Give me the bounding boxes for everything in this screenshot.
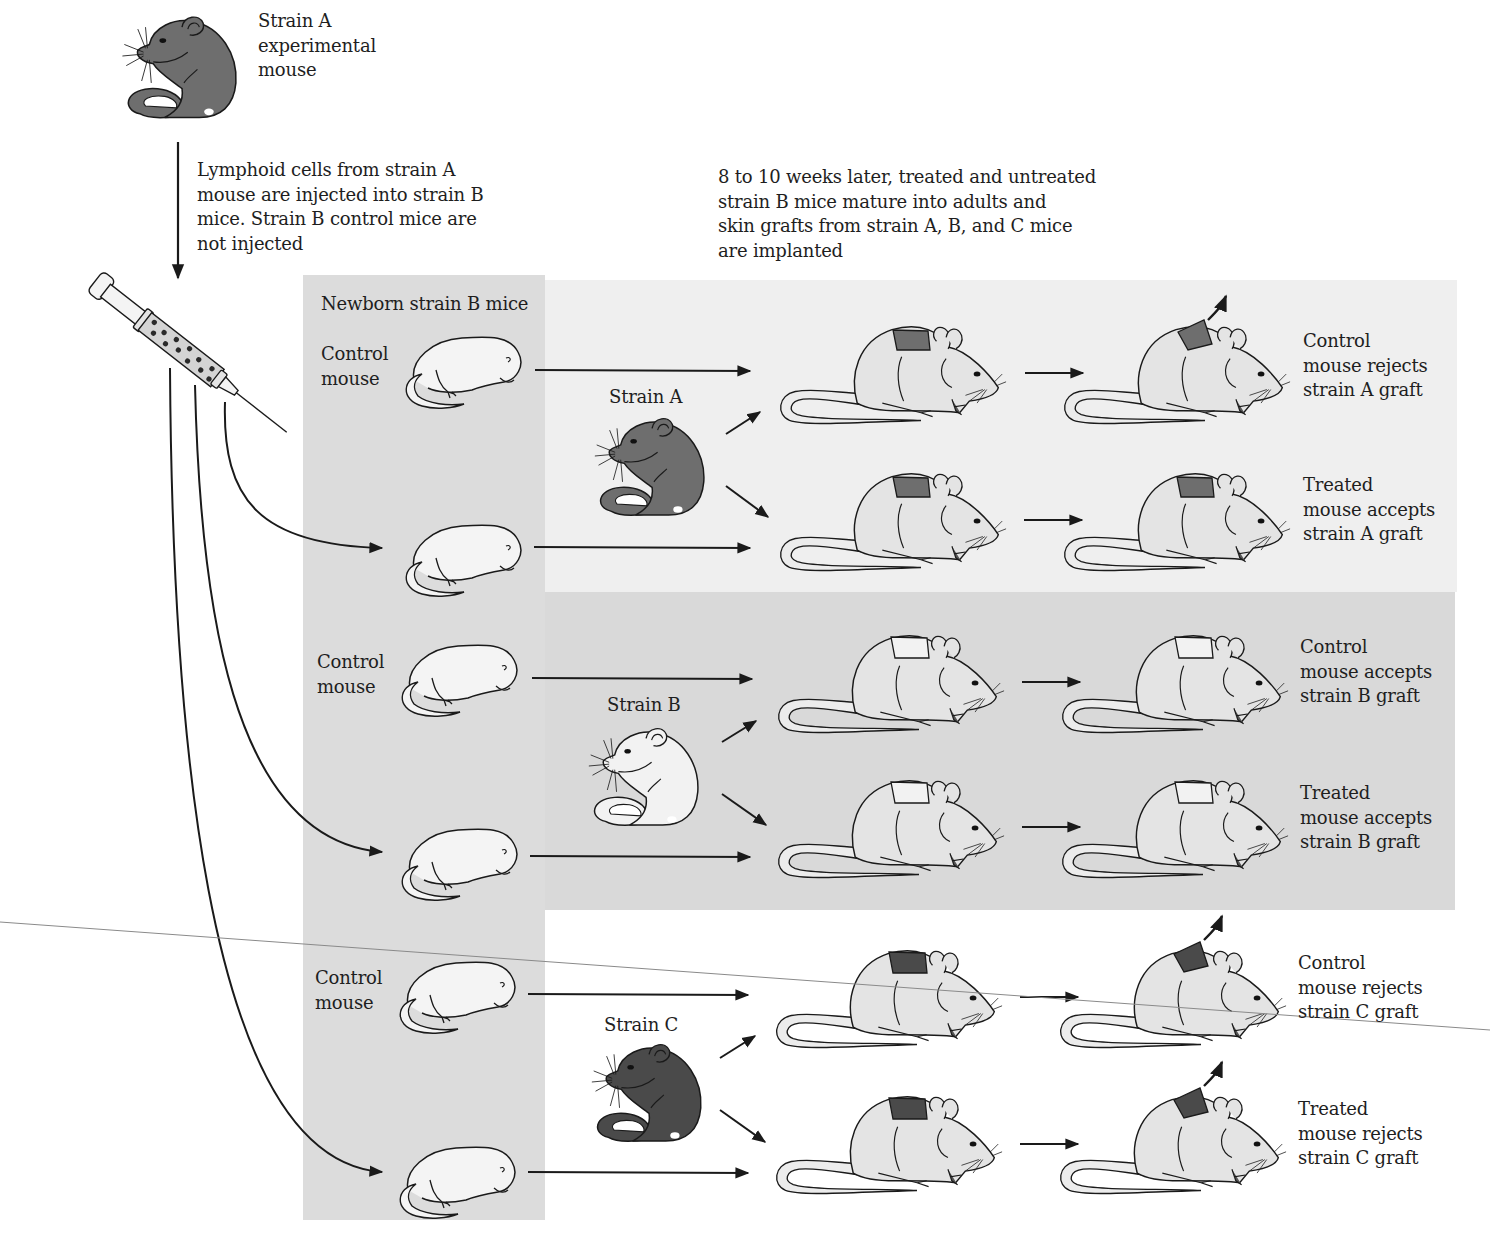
outcome-control-b: Control mouse accepts strain B graft [1300,635,1432,709]
adult-recipients-col2 [1061,327,1290,1194]
control-label-b: Control mouse [317,650,384,699]
pup-control-b-icon [402,645,517,716]
pup-treated-a-icon [406,525,521,596]
donor-label-b: Strain B [607,693,681,718]
source-mouse-label: Strain A experimental mouse [258,9,376,83]
donor-label-c: Strain C [604,1013,678,1038]
injection-note: Lymphoid cells from strain A mouse are i… [197,158,483,256]
injection-paths [170,368,382,1172]
newborn-column-title: Newborn strain B mice [321,292,528,317]
timeline-note: 8 to 10 weeks later, treated and untreat… [718,165,1096,263]
strain-c-donor-icon [592,1045,701,1141]
donor-label-a: Strain A [609,385,682,410]
outcome-treated-a: Treated mouse accepts strain A graft [1303,473,1435,547]
strain-a-source-mouse-icon [122,17,236,117]
strain-a-donor-icon [595,419,704,515]
syringe-icon [87,271,295,442]
pup-control-c-icon [400,962,515,1033]
strain-b-donor-icon [589,729,698,825]
control-label-c: Control mouse [315,966,382,1015]
pup-treated-b-icon [402,829,517,900]
adult-recipients-col1 [777,327,1006,1194]
outcome-control-c: Control mouse rejects strain C graft [1298,951,1423,1025]
graft-arrows [720,412,768,1142]
pup-treated-c-icon [400,1147,515,1218]
scan-artifact-line [0,922,1490,1030]
pup-control-a-icon [406,337,521,408]
outcome-treated-b: Treated mouse accepts strain B graft [1300,781,1432,855]
time-arrows [1020,373,1083,1144]
outcome-control-a: Control mouse rejects strain A graft [1303,329,1428,403]
control-label-a: Control mouse [321,342,388,391]
outcome-treated-c: Treated mouse rejects strain C graft [1298,1097,1423,1171]
